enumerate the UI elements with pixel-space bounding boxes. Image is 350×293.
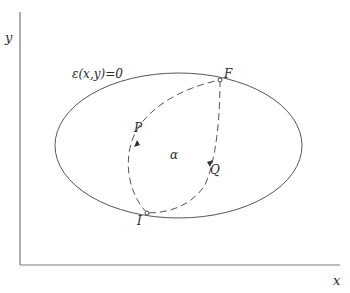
path-q xyxy=(147,80,220,213)
point-i-marker xyxy=(145,211,149,215)
point-i-label: I xyxy=(136,214,142,228)
diagram-canvas: y x ε(x,y)=0 F P α Q I xyxy=(0,0,350,293)
arrow-p-icon xyxy=(134,140,140,147)
boundary-ellipse xyxy=(55,73,302,218)
y-axis-label: y xyxy=(4,30,13,45)
path-p xyxy=(128,80,220,213)
point-f-label: F xyxy=(223,67,233,81)
x-axis-label: x xyxy=(333,273,341,288)
region-alpha-label: α xyxy=(170,148,178,162)
path-q-label: Q xyxy=(210,163,220,177)
point-f-marker xyxy=(218,78,222,82)
path-p-label: P xyxy=(133,121,143,135)
curve-equation-label: ε(x,y)=0 xyxy=(72,67,123,81)
